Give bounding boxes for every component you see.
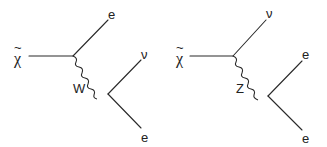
neutralino-label: χ (175, 50, 184, 68)
z-boson-label: Z (236, 81, 244, 96)
electron-bottom-label: e (141, 130, 148, 145)
electron-top-label: e (302, 47, 309, 62)
diagram-w-exchange: ~ χ e W ν e (13, 7, 148, 145)
outgoing-electron-bottom-line (108, 94, 141, 128)
electron-bottom-label: e (302, 131, 309, 146)
neutrino-label: ν (266, 6, 273, 21)
feynman-diagrams: ~ χ e W ν e ~ χ ν Z e e (0, 0, 327, 147)
electron-top-label: e (108, 7, 115, 22)
neutralino-label: χ (13, 50, 22, 68)
outgoing-electron-top-line (73, 20, 108, 56)
outgoing-neutrino-line (233, 20, 266, 56)
outgoing-electron-bottom-line (268, 96, 302, 130)
w-boson-label: W (73, 81, 86, 96)
outgoing-neutrino-line (108, 60, 141, 94)
outgoing-electron-top-line (268, 61, 302, 96)
diagram-z-exchange: ~ χ ν Z e e (175, 6, 309, 146)
neutrino-label: ν (141, 47, 148, 62)
